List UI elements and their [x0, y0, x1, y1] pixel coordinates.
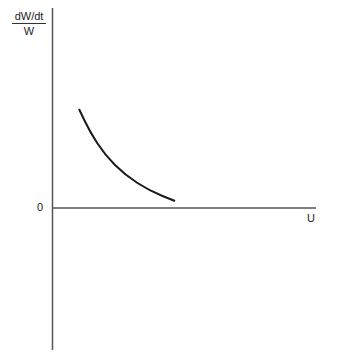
chart-canvas [0, 0, 337, 362]
data-curve [79, 109, 175, 201]
